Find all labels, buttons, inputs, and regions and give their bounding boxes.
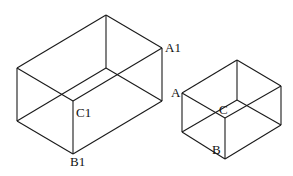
label-a: A [171, 86, 180, 99]
edge-line [106, 15, 162, 48]
label-b: B [212, 143, 221, 156]
edge-line [237, 60, 281, 86]
edge-line [225, 125, 281, 159]
edge-line [182, 60, 237, 93]
edge-line [17, 121, 73, 154]
diagram-canvas: A1 C1 B1 A C B [0, 0, 293, 176]
large-box [17, 15, 162, 154]
small-box [182, 60, 281, 159]
label-a1: A1 [165, 41, 181, 54]
edge-line [17, 68, 73, 101]
label-c: C [219, 103, 228, 116]
label-b1: B1 [70, 155, 85, 168]
edge-line [237, 100, 281, 125]
label-c1: C1 [76, 106, 91, 119]
boxes-drawing [0, 0, 293, 176]
edge-line [17, 15, 106, 68]
edge-line [106, 68, 162, 101]
